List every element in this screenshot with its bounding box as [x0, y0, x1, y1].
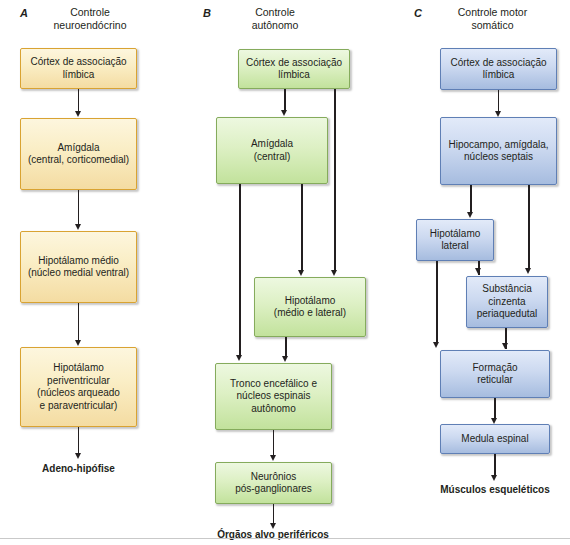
connector-c1-c2 [498, 90, 500, 112]
node-label: Hipocampo, amígdala, núcleos septais [448, 139, 548, 164]
arrowhead-c3-c4 [475, 268, 481, 274]
terminal-label-a: Adeno-hipófise [10, 463, 147, 475]
node-label: Substância cinzenta periaquedutal [477, 283, 538, 321]
node-amigdala-a[interactable]: Amígdala (central, corticomedial) [20, 118, 137, 190]
node-label: Amígdala (central) [251, 138, 293, 163]
arrowhead-c4-c5 [502, 343, 508, 349]
node-cortex-associacao-limbica-b[interactable]: Córtex de associação límbica [238, 49, 350, 89]
node-hipotalamo-medio-a[interactable]: Hipotálamo médio (núcleo medial ventral) [20, 231, 137, 303]
arrowhead-c2-c4-bypass [525, 268, 531, 274]
node-label: Formação reticular [472, 362, 517, 387]
arrowhead-b4-b5 [270, 455, 276, 461]
connector-c2-c4-bypass [528, 185, 530, 269]
panel-title-a: Controle neuroendócrino [30, 6, 150, 32]
connector-c5-c6 [494, 398, 496, 419]
node-neuronios-pos-ganglionares-b[interactable]: Neurônios pós-ganglionares [215, 462, 332, 504]
connector-b1-b3-bypass [334, 89, 336, 271]
node-formacao-reticular-c[interactable]: Formação reticular [440, 350, 550, 398]
connector-c6-terminal [494, 454, 496, 476]
panel-title-c-line1: Controle motor [425, 6, 560, 19]
panel-letter-a: A [20, 8, 28, 19]
arrowhead-c6-terminal [491, 475, 497, 481]
connector-a2-a3 [78, 190, 80, 225]
node-label: Hipotálamo periventricular (núcleos arqu… [37, 362, 120, 412]
panel-title-c-line2: somático [425, 19, 560, 32]
footer-divider [0, 538, 570, 539]
arrowhead-a1-a2 [75, 111, 81, 117]
connector-a4-terminal [78, 427, 80, 454]
terminal-label-b: Órgãos alvo periféricos [198, 529, 348, 541]
node-label: Córtex de associação límbica [30, 56, 126, 81]
node-label: Hipotálamo médio (núcleo medial ventral) [28, 255, 129, 280]
panel-title-c: Controle motor somático [425, 6, 560, 32]
node-label: Hipotálamo lateral [430, 228, 481, 253]
node-label: Córtex de associação límbica [450, 57, 546, 82]
node-substancia-cinzenta-periaquedutal-c[interactable]: Substância cinzenta periaquedutal [466, 276, 548, 328]
arrowhead-b1-b3-bypass [331, 270, 337, 276]
connector-b2-b3 [301, 184, 303, 272]
arrowhead-b3-b4 [282, 356, 288, 362]
panel-title-a-line1: Controle [30, 6, 150, 19]
panel-letter-c: C [414, 8, 422, 19]
panel-title-b: Controle autônomo [215, 6, 335, 32]
node-cortex-associacao-limbica-a[interactable]: Córtex de associação límbica [20, 48, 137, 89]
connector-b5-terminal [273, 504, 275, 524]
node-amigdala-b[interactable]: Amígdala (central) [216, 117, 328, 184]
arrowhead-b2-b4-bypass [236, 355, 242, 361]
node-medula-espinal-c[interactable]: Medula espinal [440, 424, 550, 454]
node-hipotalamo-lateral-c[interactable]: Hipotálamo lateral [416, 219, 494, 261]
connector-c3-c5-bypass [436, 261, 438, 343]
node-cortex-associacao-limbica-c[interactable]: Córtex de associação límbica [440, 48, 557, 90]
connector-a3-a4 [78, 303, 80, 341]
connector-b4-b5 [273, 430, 275, 456]
arrowhead-b2-b3 [298, 270, 304, 276]
arrowhead-a4-terminal [75, 453, 81, 459]
connector-b2-b4-bypass [239, 184, 241, 356]
panel-title-a-line2: neuroendócrino [30, 19, 150, 32]
arrowhead-a2-a3 [75, 224, 81, 230]
flow-diagram-figure: A Controle neuroendócrino Córtex de asso… [0, 0, 570, 545]
arrowhead-b1-b2 [281, 110, 287, 116]
arrowhead-c3-c5-bypass [433, 342, 439, 348]
panel-title-b-line2: autônomo [215, 19, 335, 32]
node-label: Tronco encefálico e núcleos espinais aut… [230, 378, 317, 416]
arrowhead-a3-a4 [75, 340, 81, 346]
panel-letter-b: B [203, 8, 211, 19]
connector-b1-b2 [284, 89, 286, 111]
node-label: Neurônios pós-ganglionares [235, 471, 312, 496]
terminal-label-c: Músculos esqueléticos [420, 484, 570, 496]
node-label: Córtex de associação límbica [246, 57, 342, 82]
connector-a1-a2 [78, 89, 80, 112]
node-hipotalamo-periventricular-a[interactable]: Hipotálamo periventricular (núcleos arqu… [20, 347, 137, 427]
node-hipotalamo-b[interactable]: Hipotálamo (médio e lateral) [254, 277, 366, 337]
node-hipocampo-amigdala-c[interactable]: Hipocampo, amígdala, núcleos septais [440, 117, 557, 185]
arrowhead-c2-c3 [467, 212, 473, 218]
node-label: Hipotálamo (médio e lateral) [274, 295, 346, 320]
connector-b3-b4 [285, 337, 287, 358]
connector-c2-c3 [470, 185, 472, 213]
node-tronco-encefalico-b[interactable]: Tronco encefálico e núcleos espinais aut… [215, 363, 332, 430]
node-label: Medula espinal [461, 433, 528, 446]
node-label: Amígdala (central, corticomedial) [28, 142, 129, 167]
panel-title-b-line1: Controle [215, 6, 335, 19]
